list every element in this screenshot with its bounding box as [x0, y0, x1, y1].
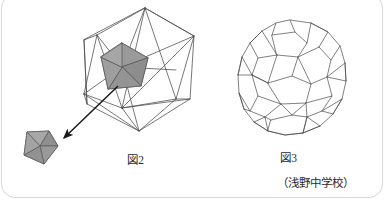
ball-top-faces	[250, 20, 328, 57]
figure-2-caption: 図2	[127, 151, 144, 167]
ball-upper-right-faces	[311, 46, 346, 84]
figure-2-icosahedron	[84, 8, 194, 131]
ball-bottom-faces	[265, 103, 307, 135]
shaded-pentagonal-cap	[101, 43, 148, 89]
figure-3-caption: 図3	[280, 149, 297, 165]
detached-pentagonal-pyramid	[24, 131, 58, 164]
figure-3-truncated-icosahedron	[238, 20, 346, 135]
cap-removal-arrow	[64, 86, 118, 138]
source-attribution: （浅野中学校）	[277, 174, 354, 190]
geometry-figures-canvas	[0, 0, 389, 200]
ball-lower-left-faces	[239, 75, 281, 131]
ball-lower-right-faces	[303, 77, 342, 133]
figure-page: 図2 図3 （浅野中学校）	[0, 0, 389, 200]
ball-upper-left-faces	[238, 43, 277, 83]
